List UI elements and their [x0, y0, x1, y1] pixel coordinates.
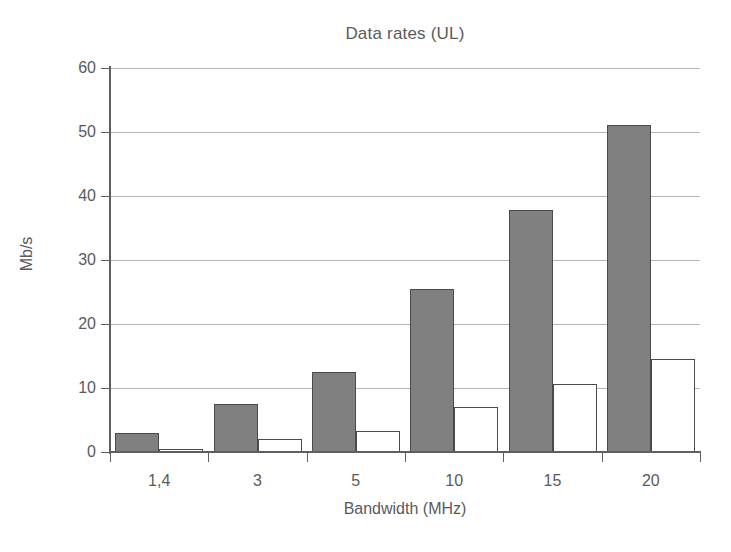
bar — [454, 407, 498, 452]
x-axis-tick — [307, 452, 308, 462]
y-axis-tick-label: 60 — [40, 60, 96, 76]
y-axis-tick-label: 40 — [40, 188, 96, 204]
y-axis-tick — [101, 196, 110, 197]
x-axis-tick-label: 5 — [307, 472, 405, 490]
y-axis-tick — [101, 388, 110, 389]
y-axis-tick-label-text: 20 — [48, 316, 96, 332]
bar-chart: Data rates (UL) 0102030405060 1,43510152… — [0, 0, 731, 552]
bar — [410, 289, 454, 452]
x-axis-tick — [405, 452, 406, 462]
y-axis-tick-label: 30 — [40, 252, 96, 268]
y-axis-tick — [101, 260, 110, 261]
y-axis-tick-label-text: 50 — [48, 124, 96, 140]
y-axis-tick-label: 50 — [40, 124, 96, 140]
y-axis-tick — [101, 452, 110, 453]
x-axis-tick-label: 3 — [208, 472, 306, 490]
y-axis-tick-label: 0 — [40, 444, 96, 460]
y-axis-tick — [101, 68, 110, 69]
bar — [312, 372, 356, 452]
bar — [651, 359, 695, 452]
plot-area — [110, 68, 700, 452]
x-axis-tick — [208, 452, 209, 462]
x-axis-tick-label: 10 — [405, 472, 503, 490]
x-axis-tick-label: 20 — [602, 472, 700, 490]
bar — [356, 431, 400, 452]
y-axis-tick-label-text: 30 — [48, 252, 96, 268]
x-axis-tick — [602, 452, 603, 462]
gridline — [110, 68, 700, 69]
x-axis-tick — [110, 452, 111, 462]
bar — [115, 433, 159, 452]
bar — [607, 125, 651, 452]
y-axis-tick-label-text: 0 — [48, 444, 96, 460]
x-axis-tick — [700, 452, 701, 462]
y-axis-tick-label-text: 40 — [48, 188, 96, 204]
chart-title: Data rates (UL) — [110, 24, 700, 44]
y-axis-tick-label: 10 — [40, 380, 96, 396]
bar — [553, 384, 597, 452]
x-axis-tick — [503, 452, 504, 462]
y-axis-tick-label: 20 — [40, 316, 96, 332]
y-axis-tick-label-text: 10 — [48, 380, 96, 396]
x-axis-tick-label: 1,4 — [110, 472, 208, 490]
x-axis-title: Bandwidth (MHz) — [110, 500, 700, 518]
y-axis-tick — [101, 132, 110, 133]
bar — [214, 404, 258, 452]
y-axis-tick — [101, 324, 110, 325]
y-axis-title: Mb/s — [18, 204, 36, 304]
y-axis-tick-label-text: 60 — [48, 60, 96, 76]
bar — [509, 210, 553, 452]
x-axis-tick-label: 15 — [503, 472, 601, 490]
